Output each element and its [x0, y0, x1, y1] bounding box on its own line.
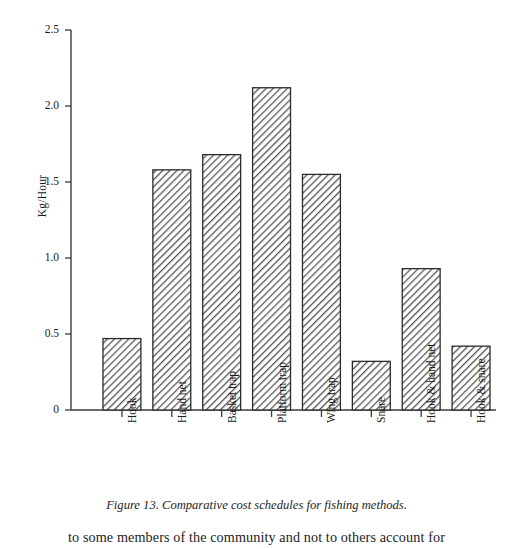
x-tick-label: Snare	[376, 397, 387, 423]
x-tick-label: Hand net	[177, 381, 188, 423]
y-tick-label: 2.0	[25, 100, 59, 111]
bar	[302, 174, 340, 410]
bar	[153, 170, 191, 410]
y-tick-label: 2.5	[25, 24, 59, 35]
x-tick-label: Platform trap	[277, 362, 288, 423]
x-tick-label: Hook & hand net	[426, 343, 437, 423]
x-tick-label: Hook	[127, 397, 138, 423]
body-paragraph-line: to some members of the community and not…	[0, 529, 513, 546]
y-tick-label: 0	[25, 404, 59, 415]
y-tick-label: 0.5	[25, 328, 59, 339]
y-tick-label: 1.5	[25, 176, 59, 187]
x-tick-label: Wing trap	[326, 377, 337, 423]
figure-13-container: Kg/Hour 00.51.01.52.02.5HookHand netBask…	[0, 0, 513, 500]
x-tick-label: Hook & snare	[476, 358, 487, 423]
x-tick-label: Basket trap	[227, 371, 238, 423]
bar-chart-plot	[0, 0, 513, 500]
y-tick-label: 1.0	[25, 252, 59, 263]
figure-caption: Figure 13. Comparative cost schedules fo…	[0, 498, 513, 513]
